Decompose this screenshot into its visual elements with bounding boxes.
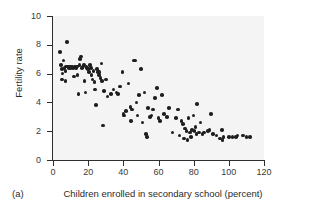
data-point [118, 85, 122, 89]
data-point [83, 79, 87, 83]
scatter-plot-figure: 0246810 020406080100120 Fertility rate C… [0, 0, 309, 212]
data-point [109, 92, 113, 96]
y-tick-label-8: 8 [21, 40, 41, 49]
y-tick-label-6: 6 [21, 69, 41, 78]
x-axis-label: Children enrolled in secondary school (p… [48, 188, 278, 199]
y-tick-6 [47, 74, 53, 75]
y-tick-8 [47, 45, 53, 46]
data-point [220, 128, 224, 132]
y-tick-10 [47, 16, 53, 17]
y-tick-label-4: 4 [21, 98, 41, 107]
data-point [58, 50, 62, 54]
y-tick-label-10: 10 [21, 12, 41, 21]
data-point [195, 102, 199, 106]
y-tick-label-0: 0 [21, 156, 41, 165]
x-tick-label-20: 20 [76, 168, 100, 177]
x-tick-20 [88, 161, 89, 166]
data-point [222, 135, 226, 139]
y-tick-4 [47, 102, 53, 103]
data-point [160, 93, 164, 97]
x-tick-label-80: 80 [182, 168, 206, 177]
x-tick-60 [159, 161, 160, 166]
data-point [174, 116, 178, 120]
x-tick-100 [229, 161, 230, 166]
x-tick-40 [123, 161, 124, 166]
data-point [116, 92, 120, 96]
data-point [137, 93, 141, 97]
x-tick-80 [194, 161, 195, 166]
x-tick-label-60: 60 [147, 168, 171, 177]
data-point [165, 115, 169, 119]
x-tick-120 [264, 161, 265, 166]
y-axis-label: Fertility rate [14, 33, 24, 113]
data-point [248, 135, 252, 139]
data-point [65, 40, 69, 44]
data-point [194, 125, 198, 129]
x-tick-label-120: 120 [252, 168, 276, 177]
data-point [208, 128, 212, 132]
panel-label: (a) [12, 188, 24, 199]
data-point [153, 96, 157, 100]
data-point [94, 103, 98, 107]
data-point [158, 119, 162, 123]
y-tick-label-2: 2 [21, 127, 41, 136]
data-point [189, 135, 193, 139]
data-point [122, 114, 126, 118]
data-point [139, 67, 143, 71]
data-point [79, 55, 83, 59]
x-tick-label-0: 0 [41, 168, 65, 177]
data-point [209, 112, 213, 116]
data-point [129, 119, 133, 123]
data-point [145, 135, 149, 139]
data-point [155, 86, 159, 90]
data-point [181, 122, 185, 126]
x-tick-0 [53, 161, 54, 166]
data-point [93, 80, 97, 84]
data-point [176, 108, 180, 112]
data-point [146, 106, 150, 110]
x-tick-label-40: 40 [111, 168, 135, 177]
data-point [101, 124, 105, 128]
data-point [104, 78, 108, 82]
data-point [77, 92, 81, 96]
data-point [124, 109, 128, 113]
data-point [102, 89, 106, 93]
x-tick-label-100: 100 [217, 168, 241, 177]
data-point [167, 106, 171, 110]
y-axis-line [52, 16, 53, 161]
y-tick-2 [47, 131, 53, 132]
